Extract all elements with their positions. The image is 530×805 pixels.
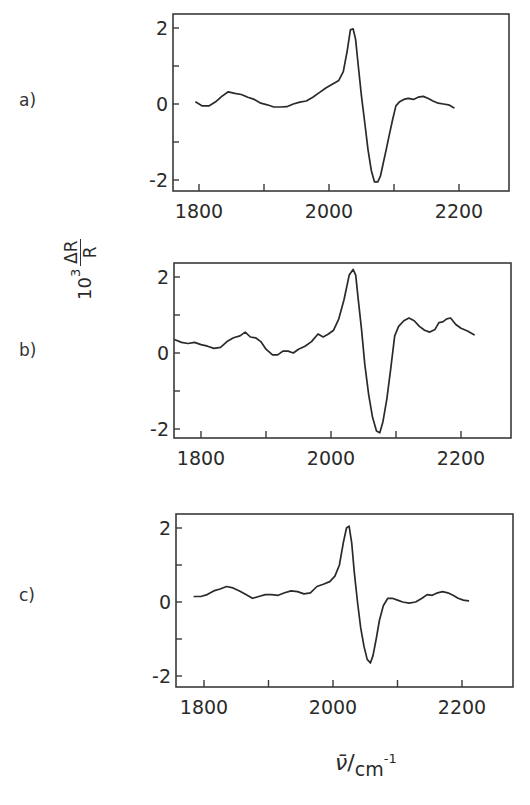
panel-label-c: c) (19, 585, 35, 605)
y-axis-label-power: 10 (74, 277, 95, 300)
y-axis-label-exponent: 3 (68, 269, 83, 277)
x-axis-label-unit: cm (355, 758, 384, 780)
figure-canvas: -202180020002200-202180020002200-2021800… (0, 0, 530, 805)
x-tick-label: 1800 (175, 200, 223, 222)
y-tick-label: 2 (157, 266, 169, 288)
y-tick-label: -2 (150, 418, 169, 440)
spectrum-line-b (175, 269, 474, 432)
y-tick-label: 0 (156, 93, 168, 115)
x-tick-label: 1800 (177, 447, 225, 469)
x-tick-label: 1800 (180, 696, 228, 718)
panel-b: -202180020002200 (150, 263, 511, 469)
x-tick-label: 2000 (305, 200, 353, 222)
x-tick-label: 2000 (307, 447, 355, 469)
panel-label-a: a) (19, 90, 36, 110)
plot-frame (174, 263, 511, 438)
spectrum-line-a (196, 29, 454, 182)
x-axis-label-symbol: ν̄ (335, 750, 347, 775)
y-tick-label: -2 (152, 665, 171, 687)
y-tick-label: 2 (159, 517, 171, 539)
x-axis-label-unit-exponent: -1 (384, 751, 397, 766)
x-tick-label: 2200 (438, 696, 486, 718)
y-tick-label: 0 (157, 342, 169, 364)
spectrum-line-c (194, 526, 468, 663)
y-axis-label-denominator: R (81, 239, 99, 266)
x-axis-label: ν̄/cm-1 (335, 750, 397, 775)
x-tick-label: 2200 (435, 200, 483, 222)
plot-frame (173, 14, 509, 191)
panel-label-b: b) (19, 340, 36, 360)
panel-c: -202180020002200 (152, 514, 513, 718)
panel-a: -202180020002200 (149, 14, 509, 222)
x-tick-label: 2000 (309, 696, 357, 718)
y-tick-label: 2 (156, 17, 168, 39)
y-axis-label-numerator: ΔR (62, 239, 81, 266)
y-tick-label: 0 (159, 591, 171, 613)
y-axis-label: 103 ΔR R (62, 180, 102, 300)
x-tick-label: 2200 (437, 447, 485, 469)
y-tick-label: -2 (149, 169, 168, 191)
